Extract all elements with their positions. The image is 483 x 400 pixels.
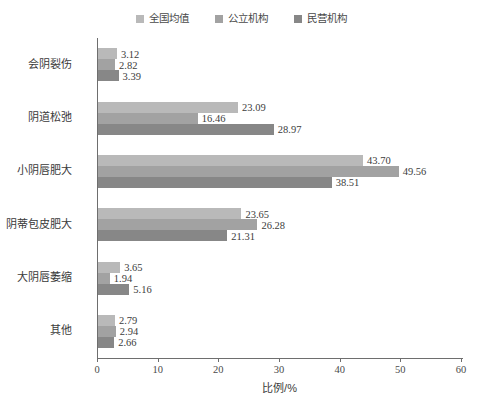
x-tick-label: 50 <box>395 364 406 375</box>
bar-row: 2.82 <box>98 59 462 70</box>
bar-value-label: 16.46 <box>202 113 226 124</box>
bar-value-label: 28.97 <box>278 124 302 135</box>
bar-row: 3.65 <box>98 262 462 273</box>
x-tick-label: 60 <box>456 364 467 375</box>
legend-item-0: 全国均值 <box>136 14 189 25</box>
bar-value-label: 23.65 <box>245 208 269 219</box>
bar <box>98 208 241 219</box>
bar-row: 2.94 <box>98 326 462 337</box>
x-tick <box>279 358 280 362</box>
bar-row: 43.70 <box>98 155 462 166</box>
legend-item-1: 公立机构 <box>215 14 268 25</box>
bar-row: 23.09 <box>98 102 462 113</box>
bar <box>98 102 238 113</box>
x-tick <box>461 358 462 362</box>
figure-caption <box>0 392 483 400</box>
x-tick-label: 30 <box>274 364 285 375</box>
category-label: 其他 <box>50 325 72 336</box>
x-tick <box>400 358 401 362</box>
bar-value-label: 2.66 <box>118 337 136 348</box>
bar <box>98 166 399 177</box>
plot-area: 会阴裂伤3.122.823.39阴道松弛23.0916.4628.97小阴唇肥大… <box>97 38 462 358</box>
bar-row: 26.28 <box>98 219 462 230</box>
x-tick <box>218 358 219 362</box>
bar-value-label: 2.79 <box>119 315 137 326</box>
x-tick <box>97 358 98 362</box>
bar-value-label: 5.16 <box>133 284 151 295</box>
x-tick-label: 0 <box>94 364 99 375</box>
category-label: 阴道松弛 <box>28 112 72 123</box>
bar-row: 38.51 <box>98 177 462 188</box>
legend-swatch-icon <box>294 15 302 23</box>
bar <box>98 177 332 188</box>
bar-value-label: 43.70 <box>367 155 391 166</box>
bar-row: 2.79 <box>98 315 462 326</box>
bar <box>98 219 257 230</box>
category-label: 阴蒂包皮肥大 <box>6 219 72 230</box>
bar-value-label: 38.51 <box>336 177 360 188</box>
bar-value-label: 1.94 <box>114 273 132 284</box>
bar <box>98 48 117 59</box>
legend-label: 全国均值 <box>149 14 189 25</box>
bar-value-label: 3.12 <box>121 48 139 59</box>
legend-item-2: 民营机构 <box>294 14 347 25</box>
bar <box>98 230 227 241</box>
bar-value-label: 23.09 <box>242 102 266 113</box>
bar <box>98 273 110 284</box>
bar-row: 49.56 <box>98 166 462 177</box>
bar <box>98 59 115 70</box>
bar-row: 1.94 <box>98 273 462 284</box>
bar <box>98 337 114 348</box>
x-tick <box>340 358 341 362</box>
x-axis-line <box>97 358 463 359</box>
bar-chart: 全国均值 公立机构 民营机构 会阴裂伤3.122.823.39阴道松弛23.09… <box>0 0 483 400</box>
bar-value-label: 3.39 <box>123 70 141 81</box>
bar-row: 3.39 <box>98 70 462 81</box>
bar <box>98 124 274 135</box>
bar <box>98 155 363 166</box>
bar-value-label: 3.65 <box>124 262 142 273</box>
bar-row: 16.46 <box>98 113 462 124</box>
legend-label: 民营机构 <box>307 14 347 25</box>
category-label: 小阴唇肥大 <box>17 165 72 176</box>
bar-value-label: 2.94 <box>120 326 138 337</box>
bar-group: 小阴唇肥大43.7049.5638.51 <box>98 155 462 188</box>
chart-legend: 全国均值 公立机构 民营机构 <box>0 14 483 25</box>
bar-group: 阴蒂包皮肥大23.6526.2821.31 <box>98 208 462 241</box>
bar-group: 会阴裂伤3.122.823.39 <box>98 48 462 81</box>
x-tick-label: 20 <box>213 364 224 375</box>
x-tick <box>158 358 159 362</box>
x-tick-label: 40 <box>334 364 345 375</box>
bar-row: 21.31 <box>98 230 462 241</box>
bar <box>98 113 198 124</box>
bar-row: 23.65 <box>98 208 462 219</box>
legend-swatch-icon <box>136 15 144 23</box>
bar-value-label: 2.82 <box>119 59 137 70</box>
bar-value-label: 21.31 <box>231 230 255 241</box>
category-label: 大阴唇萎缩 <box>17 272 72 283</box>
legend-swatch-icon <box>215 15 223 23</box>
bar-group: 其他2.792.942.66 <box>98 315 462 348</box>
bar <box>98 326 116 337</box>
bar <box>98 284 129 295</box>
y-axis-line <box>97 38 98 358</box>
category-label: 会阴裂伤 <box>28 59 72 70</box>
bar <box>98 262 120 273</box>
bar-group: 阴道松弛23.0916.4628.97 <box>98 102 462 135</box>
bar-row: 28.97 <box>98 124 462 135</box>
bar-row: 3.12 <box>98 48 462 59</box>
bar-row: 5.16 <box>98 284 462 295</box>
legend-label: 公立机构 <box>228 14 268 25</box>
bar-row: 2.66 <box>98 337 462 348</box>
bar <box>98 315 115 326</box>
bar-value-label: 49.56 <box>403 166 427 177</box>
bar-value-label: 26.28 <box>261 219 285 230</box>
bar <box>98 70 119 81</box>
x-tick-label: 10 <box>152 364 163 375</box>
bar-group: 大阴唇萎缩3.651.945.16 <box>98 262 462 295</box>
